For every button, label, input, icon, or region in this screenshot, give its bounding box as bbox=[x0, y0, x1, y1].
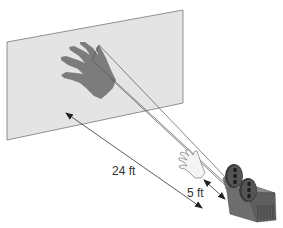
distance-label-24ft: 24 ft bbox=[112, 164, 135, 178]
distance-arrow-5ft bbox=[204, 180, 225, 199]
projection-diagram bbox=[0, 0, 283, 228]
distance-label-5ft: 5 ft bbox=[187, 186, 204, 200]
hand bbox=[179, 150, 205, 178]
film-reel-front bbox=[239, 178, 257, 202]
film-projector bbox=[223, 164, 276, 222]
